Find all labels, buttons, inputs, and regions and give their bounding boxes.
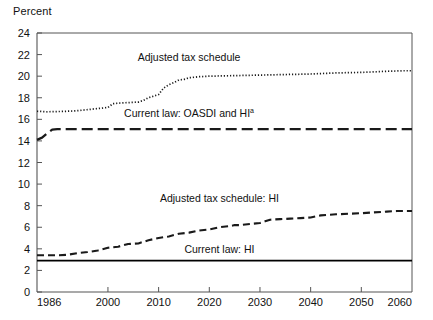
chart-figure: Percent 024681012141618202224 1986200020… [0,0,433,320]
x-tick-label: 2010 [146,296,170,308]
y-tick-label: 8 [24,200,30,212]
footnote-marker: a [250,107,254,114]
annotation-text: Adjusted tax schedule: HI [160,192,279,204]
x-tick-label: 2030 [248,296,272,308]
y-tick-label: 24 [18,27,30,39]
x-tick-label: 2060 [388,296,412,308]
y-tick-label: 20 [18,70,30,82]
series-annotation-label: Current law: OASDI and HIa [124,107,254,119]
series-line-adjusted-tax-schedule [37,71,412,112]
series-annotation-label: Adjusted tax schedule: HI [160,192,279,204]
y-tick-label: 16 [18,113,30,125]
x-tick-label: 2040 [298,296,322,308]
y-axis-ticks: 024681012141618202224 [18,27,42,298]
y-tick-label: 14 [18,135,30,147]
y-tick-label: 10 [18,178,30,190]
series-line-current-law-oasdi-and-hi [37,129,412,140]
y-tick-label: 4 [24,243,30,255]
y-tick-label: 18 [18,92,30,104]
y-tick-label: 6 [24,221,30,233]
chart-plot-area: 024681012141618202224 198620002010202020… [0,0,433,320]
y-tick-label: 12 [18,157,30,169]
data-series-group [37,71,412,261]
annotation-text: Current law: OASDI and HI [124,107,250,119]
series-annotation-label: Adjusted tax schedule [138,51,241,63]
x-tick-label: 1986 [37,296,61,308]
series-annotation-label: Current law: HI [184,243,254,255]
annotation-text: Adjusted tax schedule [138,51,241,63]
x-tick-label: 2020 [197,296,221,308]
y-axis-title: Percent [13,5,52,17]
annotation-text: Current law: HI [184,243,254,255]
y-tick-label: 2 [24,264,30,276]
x-axis-ticks: 19862000201020202030204020502060 [37,287,412,308]
series-annotations: Adjusted tax scheduleCurrent law: OASDI … [124,51,279,255]
y-tick-label: 0 [24,286,30,298]
x-tick-label: 2050 [349,296,373,308]
x-tick-label: 2000 [96,296,120,308]
y-tick-label: 22 [18,49,30,61]
